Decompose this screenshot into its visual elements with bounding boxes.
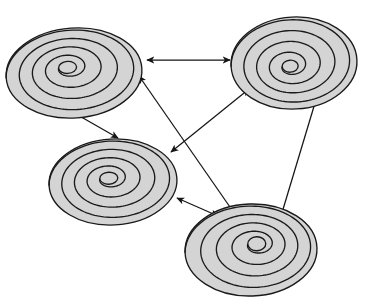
node-core	[248, 236, 266, 251]
node-core	[58, 61, 77, 74]
node-core	[282, 60, 299, 73]
node-core	[99, 172, 118, 185]
spiral-network-diagram	[0, 0, 372, 302]
diagram-canvas	[0, 0, 372, 302]
